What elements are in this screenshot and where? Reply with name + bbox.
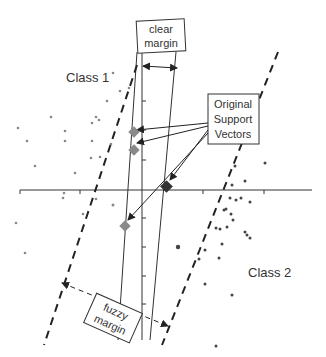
svg-text:clear: clear xyxy=(149,23,173,35)
support-vectors-label: Original Support Vectors xyxy=(208,94,259,144)
svg-text:Original: Original xyxy=(214,98,252,110)
fuzzy-margin-label: fuzzy margin xyxy=(84,293,143,343)
svg-text:Vectors: Vectors xyxy=(215,128,252,140)
svg-text:Support: Support xyxy=(214,113,253,125)
class2-label: Class 2 xyxy=(248,265,291,280)
svm-margin-diagram: clear margin Original Support Vectors xyxy=(0,0,326,357)
clear-margin-arrow xyxy=(143,66,177,68)
fuzzy-margin-left-line xyxy=(44,65,137,345)
class1-label: Class 1 xyxy=(66,70,109,85)
clear-margin-right-line xyxy=(150,52,176,340)
svg-text:margin: margin xyxy=(144,37,178,49)
class1-points xyxy=(15,72,131,255)
class2-points xyxy=(176,162,267,348)
clear-margin-label: clear margin xyxy=(136,19,186,53)
